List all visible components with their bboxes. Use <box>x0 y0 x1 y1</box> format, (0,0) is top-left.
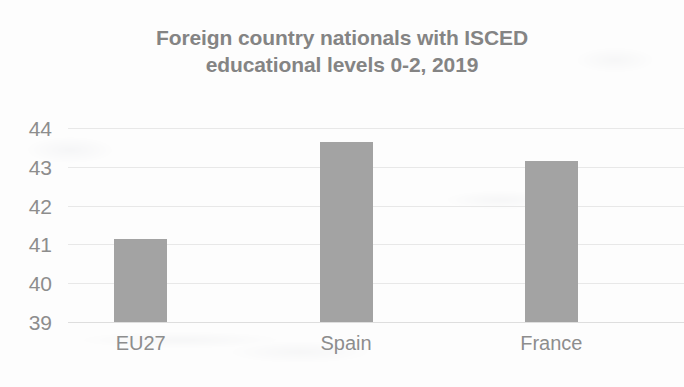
y-axis-tick-label: 43 <box>29 156 52 177</box>
bar-spain <box>320 142 373 322</box>
chart-title-line-2: educational levels 0-2, 2019 <box>0 51 684 78</box>
gridline <box>68 128 684 129</box>
y-axis-tick-label: 41 <box>29 234 52 255</box>
x-axis-tick-label: Spain <box>320 330 371 356</box>
y-axis-tick-label: 42 <box>29 195 52 216</box>
plot-area <box>68 128 684 322</box>
x-axis-tick-label: EU27 <box>116 330 166 356</box>
x-axis: EU27SpainFrance <box>68 330 684 364</box>
bar-chart: Foreign country nationals with ISCED edu… <box>0 0 684 387</box>
y-axis: 444342414039 <box>0 128 58 322</box>
gridline <box>68 167 684 168</box>
gridline <box>68 206 684 207</box>
x-axis-tick-label: France <box>520 330 582 356</box>
y-axis-tick-label: 39 <box>29 312 52 333</box>
bar-eu27 <box>114 239 167 322</box>
y-axis-tick-label: 44 <box>29 118 52 139</box>
chart-title: Foreign country nationals with ISCED edu… <box>0 24 684 78</box>
bar-france <box>525 161 578 322</box>
y-axis-tick-label: 40 <box>29 273 52 294</box>
chart-title-line-1: Foreign country nationals with ISCED <box>0 24 684 51</box>
gridline <box>68 322 684 323</box>
